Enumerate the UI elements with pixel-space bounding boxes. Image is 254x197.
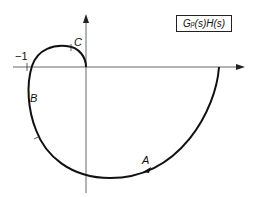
point-b-label: B xyxy=(30,93,37,104)
point-a-label: A xyxy=(142,155,149,166)
nyquist-curve xyxy=(29,46,219,178)
tf-g: G xyxy=(183,18,191,29)
direction-arrow-icon xyxy=(143,167,151,173)
real-axis-arrow-icon xyxy=(236,64,245,70)
imag-axis-arrow-icon xyxy=(83,14,89,23)
minus-one-label: −1 xyxy=(15,51,28,62)
tf-rest: (s)H(s) xyxy=(195,18,226,29)
point-c-label: C xyxy=(74,37,82,48)
transfer-function-box: Gp(s)H(s) xyxy=(176,15,232,32)
